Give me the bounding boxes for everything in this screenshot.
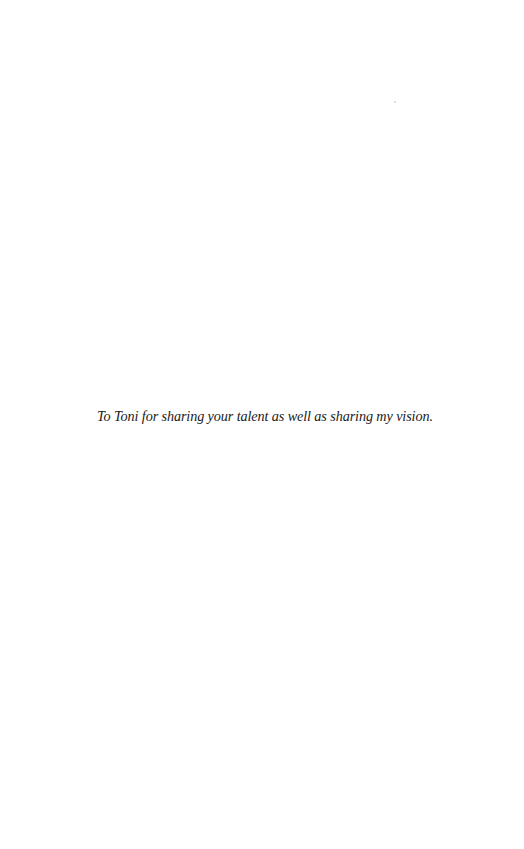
book-page: To Toni for sharing your talent as well … <box>0 0 524 849</box>
scan-artifact <box>394 101 396 103</box>
dedication-text: To Toni for sharing your talent as well … <box>0 407 524 425</box>
